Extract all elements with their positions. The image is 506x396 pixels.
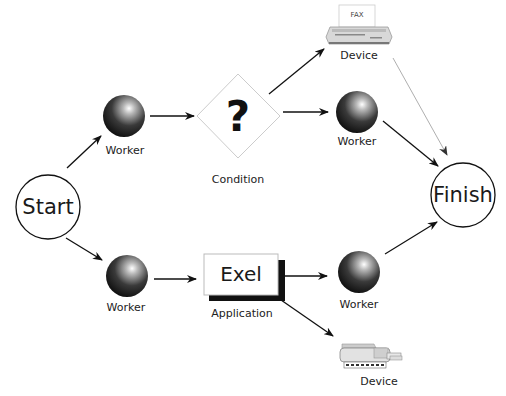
worker-bottom-label: Worker xyxy=(107,301,146,314)
question-mark-icon: ? xyxy=(226,92,250,141)
finish-label: Finish xyxy=(433,183,493,207)
worker-top-label: Worker xyxy=(106,144,145,157)
edge-worker-top-right-finish xyxy=(383,121,438,166)
workflow-diagram xyxy=(0,0,506,396)
worker-top-icon[interactable] xyxy=(103,95,145,137)
printer-device-label: Device xyxy=(360,375,398,388)
application-box-text: Exel xyxy=(220,262,262,286)
worker-bottom-right-icon[interactable] xyxy=(338,251,380,293)
edge-start-worker-bottom xyxy=(66,238,102,260)
edge-start-worker-top xyxy=(67,136,101,168)
condition-label: Condition xyxy=(212,173,265,186)
edge-fax-finish xyxy=(393,58,447,155)
edge-application-printer xyxy=(281,300,333,336)
start-label: Start xyxy=(22,195,73,219)
printer-device-icon[interactable] xyxy=(340,344,402,368)
fax-screen-text: FAX xyxy=(351,11,364,19)
application-label: Application xyxy=(211,307,272,320)
edge-worker-bottom-right-finish xyxy=(385,222,437,254)
worker-bottom-right-label: Worker xyxy=(340,298,379,311)
edge-condition-fax xyxy=(269,49,324,94)
worker-top-right-label: Worker xyxy=(338,135,377,148)
fax-device-label: Device xyxy=(340,49,378,62)
worker-top-right-icon[interactable] xyxy=(336,91,378,133)
worker-bottom-icon[interactable] xyxy=(106,255,148,297)
